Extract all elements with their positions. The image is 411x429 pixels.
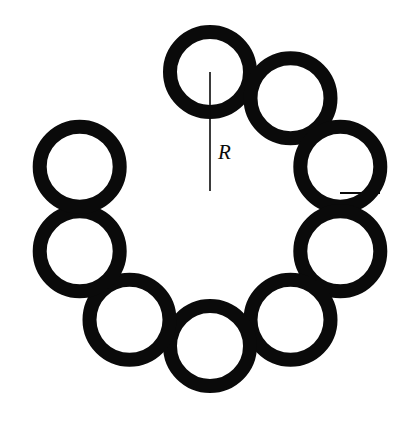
small-radius-label: r xyxy=(352,195,361,219)
figure-canvas: R r xyxy=(0,0,411,429)
big-radius-label: R xyxy=(217,140,231,164)
ring-of-circles-diagram: R r xyxy=(0,0,411,429)
